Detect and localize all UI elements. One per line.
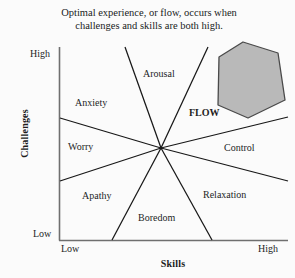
sector-label-arousal: Arousal [143, 68, 175, 79]
y-axis-title: Challenges [19, 94, 30, 174]
sector-label-worry: Worry [68, 141, 93, 152]
x-tick-low: Low [61, 243, 79, 254]
flow-region-hexagon [218, 42, 285, 118]
flow-model-chart: Optimal experience, or flow, occurs when… [0, 0, 295, 278]
sector-label-flow: FLOW [189, 107, 220, 118]
y-tick-high: High [30, 48, 50, 59]
x-axis-title: Skills [59, 258, 287, 269]
sector-label-boredom: Boredom [138, 212, 175, 223]
sector-label-anxiety: Anxiety [75, 97, 107, 108]
sector-label-relaxation: Relaxation [203, 189, 246, 200]
divider-arousal-flow [161, 47, 208, 148]
sector-label-apathy: Apathy [82, 190, 111, 201]
y-tick-low: Low [33, 228, 51, 239]
x-tick-high: High [258, 243, 278, 254]
sector-label-control: Control [224, 142, 255, 153]
divider-anxiety-arousal [125, 47, 161, 148]
